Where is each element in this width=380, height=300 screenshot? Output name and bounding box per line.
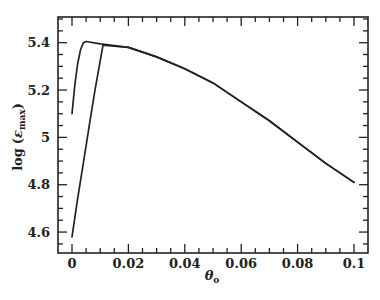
data-curves [72, 42, 354, 237]
curve-lower-start [72, 45, 354, 237]
line-chart: 00.020.040.060.080.14.64.855.25.4 log(εm… [0, 0, 380, 300]
x-tick-label: 0.1 [343, 256, 366, 271]
x-tick-label: 0.02 [113, 256, 145, 271]
x-tick-label: 0.04 [169, 256, 201, 271]
y-axis-label: log(εmax) [10, 103, 27, 171]
y-tick-label: 5.4 [27, 35, 50, 50]
axis-tick-labels: 00.020.040.060.080.14.64.855.25.4 [27, 35, 365, 271]
y-tick-label: 4.6 [27, 225, 50, 240]
plot-frame [58, 17, 368, 253]
y-tick-label: 4.8 [27, 177, 50, 192]
x-tick-label: 0 [67, 256, 76, 271]
x-tick-label: 0.06 [225, 256, 257, 271]
axis-ticks [58, 17, 368, 253]
y-tick-label: 5.2 [27, 83, 50, 98]
curve-upper-start [72, 42, 354, 183]
y-tick-label: 5 [41, 130, 50, 145]
x-tick-label: 0.08 [282, 256, 314, 271]
x-axis-label: θo [205, 268, 220, 285]
